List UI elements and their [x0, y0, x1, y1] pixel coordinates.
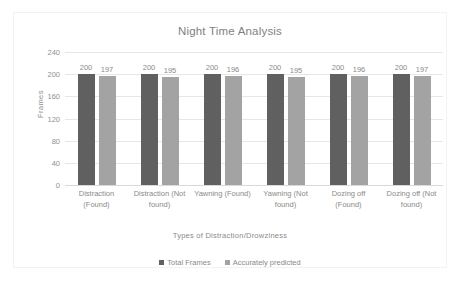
- bar-total[interactable]: [204, 74, 221, 185]
- chart-title: Night Time Analysis: [14, 25, 446, 37]
- x-axis-category-label: Distraction (Found): [65, 189, 128, 210]
- bar-value-label: 200: [269, 63, 282, 72]
- legend-item[interactable]: Accurately predicted: [225, 258, 301, 267]
- x-axis-category-label: Distraction (Not found): [128, 189, 191, 210]
- bar-total[interactable]: [141, 74, 158, 185]
- y-axis-tick-label: 240: [47, 48, 60, 57]
- bar-group: 200195: [128, 52, 191, 185]
- legend-label: Total Frames: [167, 258, 210, 267]
- bar-accurate[interactable]: [162, 77, 179, 185]
- bar-value-label: 195: [290, 66, 303, 75]
- bar-accurate[interactable]: [288, 77, 305, 185]
- bar-total[interactable]: [78, 74, 95, 185]
- legend-item[interactable]: Total Frames: [159, 258, 210, 267]
- y-axis-tick-label: 200: [47, 70, 60, 79]
- x-axis-category-label: Dozing off (Not found): [380, 189, 443, 210]
- bar-value-label: 200: [80, 63, 93, 72]
- bar-series-layer: 200197200195200196200195200196200197: [65, 52, 443, 185]
- bar-value-label: 195: [164, 66, 177, 75]
- bar-total[interactable]: [267, 74, 284, 185]
- bar-group: 200196: [191, 52, 254, 185]
- y-axis-tick-label: 40: [52, 158, 60, 167]
- bar-value-label: 196: [353, 65, 366, 74]
- chart-container: Night Time Analysis Frames 2402001601208…: [13, 12, 447, 268]
- bar-accurate[interactable]: [351, 76, 368, 185]
- bar-value-label: 197: [101, 65, 114, 74]
- bar-group: 200197: [380, 52, 443, 185]
- bar-value-label: 200: [206, 63, 219, 72]
- x-axis-category-label: Yawning (Not found): [254, 189, 317, 210]
- x-axis-title: Types of Distraction/Drowziness: [14, 231, 446, 240]
- bar-accurate[interactable]: [414, 76, 431, 185]
- bar-total[interactable]: [393, 74, 410, 185]
- plot-area: 24020016012080400 2001972001952001962001…: [65, 52, 443, 185]
- bar-accurate[interactable]: [225, 76, 242, 185]
- bar-value-label: 200: [143, 63, 156, 72]
- chart-legend: Total FramesAccurately predicted: [14, 258, 446, 267]
- x-axis-category-labels: Distraction (Found)Distraction (Not foun…: [65, 189, 443, 210]
- bar-accurate[interactable]: [99, 76, 116, 185]
- y-axis-tick-label: 0: [56, 181, 60, 190]
- legend-label: Accurately predicted: [233, 258, 301, 267]
- bar-value-label: 196: [227, 65, 240, 74]
- gridline: [65, 185, 443, 186]
- bar-group: 200196: [317, 52, 380, 185]
- y-axis-tick-label: 120: [47, 114, 60, 123]
- bar-value-label: 197: [416, 65, 429, 74]
- legend-swatch-icon: [225, 260, 230, 265]
- x-axis-category-label: Yawning (Found): [191, 189, 254, 210]
- y-axis-tick-label: 80: [52, 136, 60, 145]
- bar-total[interactable]: [330, 74, 347, 185]
- legend-swatch-icon: [159, 260, 164, 265]
- y-axis-tick-label: 160: [47, 92, 60, 101]
- y-axis-title: Frames: [36, 90, 45, 118]
- x-axis-category-label: Dozing off (Found): [317, 189, 380, 210]
- bar-group: 200197: [65, 52, 128, 185]
- bar-value-label: 200: [332, 63, 345, 72]
- bar-value-label: 200: [395, 63, 408, 72]
- bar-group: 200195: [254, 52, 317, 185]
